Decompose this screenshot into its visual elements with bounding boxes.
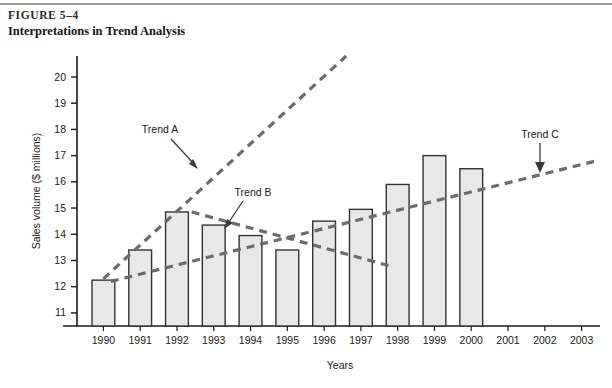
x-tick-label-1997: 1997	[349, 334, 373, 346]
y-tick-label: 12	[54, 280, 66, 292]
y-axis-ticks: 11121314151617181920	[54, 71, 77, 319]
figure-root: FIGURE 5–4 Interpretations in Trend Anal…	[0, 0, 612, 388]
y-tick-label: 13	[54, 254, 66, 266]
x-tick-label-2000: 2000	[460, 334, 484, 346]
x-tick-label-1993: 1993	[202, 334, 226, 346]
y-tick-label: 11	[55, 306, 66, 318]
x-tick-label-1990: 1990	[92, 334, 116, 346]
bar-1997	[349, 209, 372, 326]
bar-1993	[202, 225, 225, 326]
trend-a-label: Trend A	[142, 123, 178, 135]
y-axis-title: Sales volume ($ millions)	[30, 133, 42, 250]
x-tick-label-1995: 1995	[276, 334, 300, 346]
y-tick-label: 17	[54, 149, 66, 161]
y-tick-label: 20	[54, 71, 66, 83]
y-tick-label: 18	[54, 123, 66, 135]
x-tick-label-1994: 1994	[239, 334, 263, 346]
bar-1991	[129, 250, 152, 326]
header-divider	[0, 3, 612, 5]
y-tick-label: 15	[54, 202, 66, 214]
x-axis-title: Years	[327, 359, 353, 371]
x-tick-label-1998: 1998	[386, 334, 410, 346]
bar-1994	[239, 236, 262, 326]
bar-1992	[166, 212, 189, 326]
bar-1998	[386, 184, 409, 326]
y-tick-label: 14	[54, 228, 66, 240]
y-tick-label: 16	[54, 175, 66, 187]
x-tick-label-2003: 2003	[570, 334, 594, 346]
x-axis-ticks: 1990199119921993199419951996199719981999…	[92, 326, 594, 346]
chart-canvas: 11121314151617181920 1990199119921993199…	[0, 44, 612, 388]
figure-title: Interpretations in Trend Analysis	[8, 24, 185, 39]
x-tick-label-1991: 1991	[128, 334, 152, 346]
x-tick-label-2001: 2001	[496, 334, 520, 346]
bar-1990	[92, 280, 115, 326]
trend-c-label: Trend C	[521, 128, 559, 140]
x-tick-label-2002: 2002	[533, 334, 557, 346]
figure-number: FIGURE 5–4	[8, 9, 79, 21]
trend-b-label: Trend B	[235, 186, 272, 198]
bar-1999	[423, 156, 446, 326]
x-tick-label-1992: 1992	[165, 334, 189, 346]
x-tick-label-1999: 1999	[423, 334, 447, 346]
y-tick-label: 19	[54, 97, 66, 109]
trend-c-arrow-head	[535, 162, 545, 173]
trend-analysis-chart: 11121314151617181920 1990199119921993199…	[0, 44, 612, 388]
bar-1995	[276, 250, 299, 326]
bar-series	[92, 156, 483, 326]
bar-1996	[313, 221, 336, 326]
x-tick-label-1996: 1996	[312, 334, 336, 346]
